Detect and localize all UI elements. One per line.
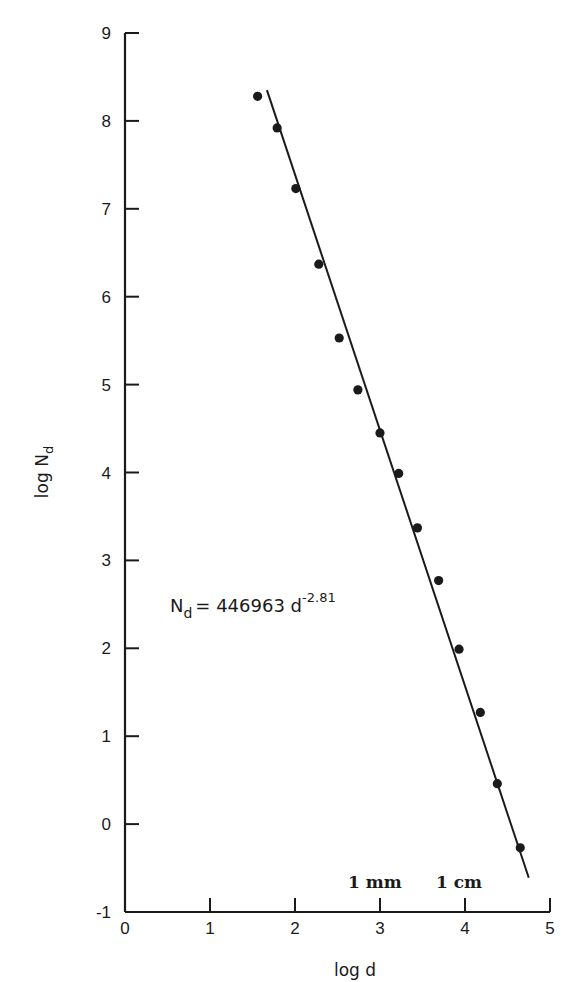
y-tick-label: 1	[102, 727, 111, 746]
data-point	[413, 523, 422, 532]
y-axis-label-main: log N	[32, 454, 52, 498]
data-point	[253, 92, 262, 101]
chart: -10123456789 012345 log Nd log d Nd= 446…	[0, 0, 587, 982]
data-point	[394, 469, 403, 478]
y-tick-label: 8	[102, 112, 111, 131]
annotation-1mm: 1 mm	[348, 872, 402, 892]
y-tick-label: 4	[102, 464, 111, 483]
y-tick-label: -1	[96, 903, 111, 922]
x-tick-label: 4	[460, 919, 469, 938]
data-point	[291, 184, 300, 193]
equation-lhs-sub: d	[183, 605, 192, 621]
equation-rhs: = 446963 d	[195, 595, 302, 616]
y-tick-label: 5	[102, 376, 111, 395]
fit-line	[267, 90, 529, 878]
equation-exponent: -2.81	[302, 590, 336, 605]
y-axis-label-sub: d	[41, 446, 56, 454]
data-point	[375, 428, 384, 437]
data-point	[335, 333, 344, 342]
y-axis-label: log Nd	[32, 446, 56, 498]
y-tick-label: 2	[102, 639, 111, 658]
data-point	[476, 708, 485, 717]
x-axis-ticks: 012345	[120, 898, 554, 938]
y-tick-label: 3	[102, 551, 111, 570]
y-tick-label: 9	[102, 24, 111, 43]
x-tick-label: 5	[545, 919, 554, 938]
data-point	[273, 123, 282, 132]
y-axis-ticks: -10123456789	[96, 24, 139, 922]
equation-lhs: N	[170, 595, 183, 616]
y-tick-label: 7	[102, 200, 111, 219]
equation-annotation: Nd= 446963 d-2.81	[170, 590, 336, 621]
data-point	[516, 843, 525, 852]
x-tick-label: 0	[120, 919, 129, 938]
y-tick-label: 0	[102, 815, 111, 834]
fit-line-segment	[267, 90, 529, 878]
x-tick-label: 2	[290, 919, 299, 938]
data-point	[353, 385, 362, 394]
y-tick-label: 6	[102, 288, 111, 307]
x-axis-label: log d	[334, 960, 376, 980]
axes	[125, 33, 550, 912]
data-points	[253, 92, 525, 853]
data-point	[454, 645, 463, 654]
x-tick-label: 1	[205, 919, 214, 938]
x-tick-label: 3	[375, 919, 384, 938]
data-point	[493, 779, 502, 788]
data-point	[314, 260, 323, 269]
annotation-1cm: 1 cm	[436, 872, 482, 892]
data-point	[434, 576, 443, 585]
